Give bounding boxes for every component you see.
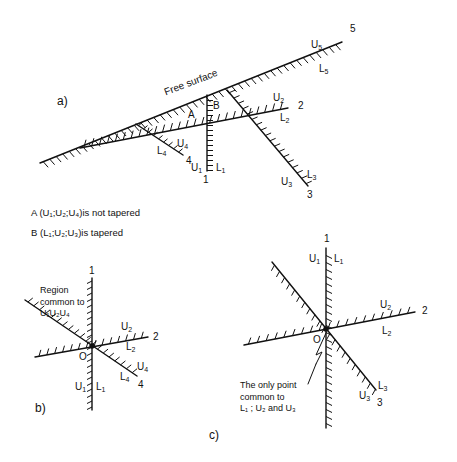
line-5-number: 5 (350, 24, 356, 34)
line-3-number: 3 (307, 190, 313, 200)
line-1-number: 1 (203, 175, 209, 185)
panel-b-origin-label: O (79, 352, 87, 362)
line-3-upper-label: U3 (281, 177, 292, 188)
line-4-number: 4 (186, 156, 192, 166)
line-3-lower-label: L3 (307, 170, 316, 181)
region-b-label: B (213, 101, 220, 111)
line-5-upper-label: U5 (311, 40, 322, 51)
line-4-upper-label: U4 (177, 139, 188, 150)
panel-c-line-1-number: 1 (324, 234, 330, 244)
panel-c-line-2-lower-label: L2 (382, 326, 391, 337)
panel-b-line-4-number: 4 (138, 380, 144, 390)
panel-c-line-2-upper-label: U2 (380, 300, 391, 311)
line-2-lower-label: L2 (280, 113, 289, 124)
line-5-lower-label: L5 (319, 64, 328, 75)
panel-b-line-1-number: 1 (89, 266, 95, 276)
panel-c-origin-label: O (313, 335, 321, 345)
panel-a-line-3 (227, 90, 308, 186)
panel-b-origin-point (90, 344, 94, 348)
panel-c-line-3-number: 3 (377, 398, 383, 408)
caption-region-b: B (L₁;U₂;U₃)is tapered (31, 228, 123, 238)
line-4-lower-label: L4 (157, 146, 166, 157)
panel-c-common-point-note: The only point common to L₁ ; U₂ and U₃ (240, 380, 297, 415)
panel-c-line-3-lower-label: L3 (378, 381, 387, 392)
panel-c-origin-point (324, 327, 328, 331)
panel-b-region-note: Region common to U₁U₂U₄ (40, 285, 85, 320)
line-2-upper-label: U2 (273, 93, 284, 104)
panel-c-label: c) (209, 429, 219, 441)
line-2-number: 2 (298, 101, 304, 111)
panel-b-line-4-upper-label: U4 (137, 362, 148, 373)
panel-c-line-1-lower-label: L1 (334, 254, 343, 265)
panel-b-line-4-lower-label: L4 (120, 372, 129, 383)
panel-c-line-1-upper-label: U1 (309, 254, 320, 265)
panel-b-line-2-number: 2 (153, 332, 159, 342)
panel-b-line-1-lower-label: L1 (96, 382, 105, 393)
panel-a-label: a) (57, 95, 68, 107)
panel-c-line-3-upper-label: U3 (359, 391, 370, 402)
region-a-label: A (188, 110, 195, 120)
caption-region-a: A (U₁;U₂;U₄)is not tapered (31, 208, 140, 218)
line-1-lower-label: L1 (216, 163, 225, 174)
panel-b-label: b) (35, 402, 46, 414)
panel-b-line-2-lower-label: L2 (126, 342, 135, 353)
panel-c-line-2-number: 2 (422, 306, 428, 316)
panel-b-line-1-upper-label: U1 (75, 382, 86, 393)
panel-b-line-2-upper-label: U2 (121, 322, 132, 333)
panel-c-line-3 (272, 262, 376, 390)
line-1-upper-label: U1 (191, 163, 202, 174)
